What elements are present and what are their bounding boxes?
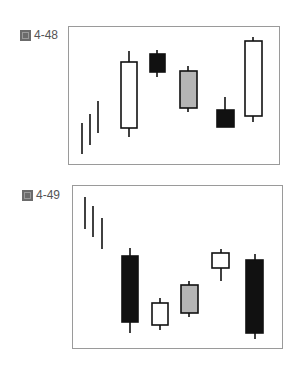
candle-black <box>246 254 263 339</box>
candle-white <box>152 298 168 330</box>
candle-gray <box>180 66 197 112</box>
candle-black <box>217 97 234 127</box>
chart-4-48 <box>82 37 262 154</box>
candlestick-charts <box>0 0 295 374</box>
candle-white <box>121 51 137 137</box>
candle-white <box>245 37 262 122</box>
candle-gray <box>181 281 198 317</box>
candle-black <box>122 248 138 333</box>
candle-black <box>150 50 165 77</box>
chart-4-49 <box>85 197 263 339</box>
candle-white <box>212 249 229 281</box>
